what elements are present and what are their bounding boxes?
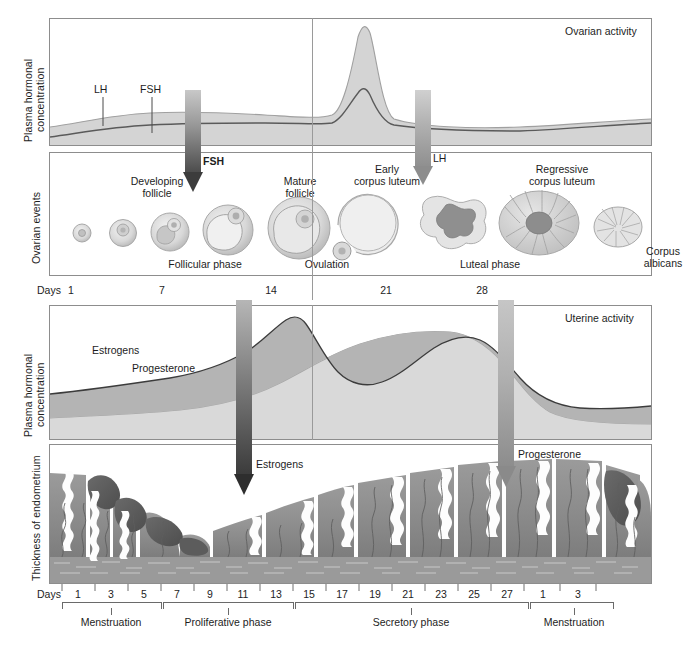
ovulation-midline-bottom <box>312 305 313 440</box>
uterine-activity-label: Uterine activity <box>565 312 634 324</box>
mature-follicle-label: Mature follicle <box>255 175 345 200</box>
luteal-phase-label: Luteal phase <box>435 258 545 270</box>
ovarian-hormone-axis-label: Plasma hormonal concentration <box>22 40 50 160</box>
uterine-day-tick: 3 <box>575 588 581 600</box>
fsh-curve-label: FSH <box>140 83 161 95</box>
uterine-day-tick: 21 <box>402 588 414 600</box>
secretory-phase-label: Secretory phase <box>346 616 476 628</box>
progesterone-arrow <box>498 300 514 488</box>
menstruation-phase-label-1: Menstruation <box>56 616 166 628</box>
ovarian-days-scale: 1 7 14 21 28 <box>0 284 670 298</box>
ovarian-day-tick: 7 <box>159 284 165 296</box>
secretory-phase-bracket-stem <box>411 608 412 615</box>
ovulation-label: Ovulation <box>282 258 372 270</box>
estrogens-curve-label: Estrogens <box>92 344 139 356</box>
regressive-corpus-luteum-label: Regressive corpus luteum <box>509 163 615 188</box>
menstruation-bracket-1-stem <box>111 608 112 615</box>
proliferative-phase-bracket-stem <box>228 608 229 615</box>
ovarian-day-tick: 1 <box>68 284 74 296</box>
uterine-day-tick: 25 <box>468 588 480 600</box>
uterine-day-tick: 3 <box>108 588 114 600</box>
lh-curve-label: LH <box>94 83 107 95</box>
corpus-albicans-label: Corpus albicans <box>631 245 687 270</box>
menstruation-phase-label-2: Menstruation <box>519 616 629 628</box>
secretory-phase-bracket <box>295 602 529 609</box>
uterine-day-tick: 11 <box>238 588 249 600</box>
ovarian-activity-label: Ovarian activity <box>565 25 637 37</box>
ovarian-hormone-curves <box>50 19 651 145</box>
proliferative-phase-label: Proliferative phase <box>163 616 293 628</box>
uterine-day-tick: 15 <box>303 588 315 600</box>
uterine-day-tick: 13 <box>270 588 282 600</box>
ovarian-events-panel: Developing follicle Mature follicle Earl… <box>49 152 652 276</box>
uterine-day-tick: 27 <box>501 588 513 600</box>
ovarian-hormones-panel <box>49 18 652 146</box>
estrogens-arrow-label: Estrogens <box>256 458 303 470</box>
uterine-days-scale: 1 3 5 7 9 11 13 15 17 19 21 23 25 27 1 3 <box>0 588 670 602</box>
fsh-arrow <box>185 90 201 192</box>
endometrium-illustration <box>50 445 651 583</box>
ovarian-day-tick: 14 <box>265 284 277 296</box>
estrogens-arrow <box>236 300 252 496</box>
uterine-day-tick: 19 <box>369 588 381 600</box>
ovarian-day-tick: 28 <box>476 284 488 296</box>
uterine-day-tick: 23 <box>435 588 447 600</box>
endometrium-axis-label: Thickness of endometrium <box>30 452 46 584</box>
menstruation-bracket-1 <box>62 602 162 609</box>
uterine-day-tick: 1 <box>540 588 546 600</box>
uterine-day-tick: 17 <box>336 588 348 600</box>
progesterone-curve-label: Progesterone <box>132 362 195 374</box>
progesterone-arrow-label: Progesterone <box>518 448 581 460</box>
uterine-day-tick: 1 <box>75 588 81 600</box>
fsh-arrow-label: FSH <box>203 155 224 167</box>
lh-arrow-label: LH <box>433 152 446 164</box>
ovulation-midline-top <box>312 18 313 300</box>
ovarian-day-tick: 21 <box>380 284 392 296</box>
uterine-day-tick: 7 <box>174 588 180 600</box>
lh-arrow <box>415 90 431 186</box>
menstruation-bracket-2-stem <box>574 608 575 615</box>
uterine-day-tick: 5 <box>141 588 147 600</box>
menstruation-bracket-2 <box>530 602 614 609</box>
ovarian-events-axis-label: Ovarian events <box>30 178 46 278</box>
endometrium-panel <box>49 444 652 584</box>
uterine-hormone-axis-label: Plasma hormonal concentration <box>22 335 50 455</box>
follicular-phase-label: Follicular phase <box>140 258 270 270</box>
uterine-day-tick: 9 <box>207 588 213 600</box>
